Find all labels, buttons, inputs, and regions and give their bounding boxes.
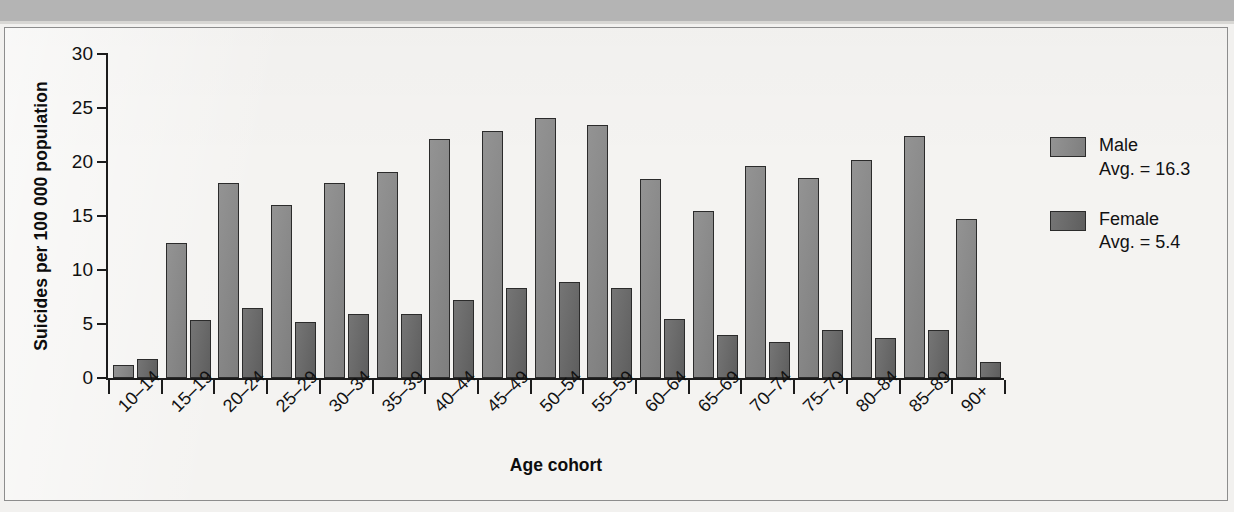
bar-male[interactable] (851, 160, 872, 378)
bar-male[interactable] (956, 219, 977, 378)
y-axis-tick-label: 5 (82, 313, 93, 335)
y-axis-title: Suicides per 100 000 population (28, 54, 54, 378)
legend-series-name: Male (1099, 134, 1190, 158)
y-axis-tick-label: 10 (72, 259, 93, 281)
y-axis-tick-label: 25 (72, 97, 93, 119)
bar-group (899, 54, 952, 378)
bar-group (688, 54, 741, 378)
y-axis-tick (97, 323, 108, 325)
bar-group (582, 54, 635, 378)
x-axis-tick (688, 380, 690, 394)
bar-male[interactable] (324, 183, 345, 378)
chart-legend: Male Avg. = 16.3 Female Avg. = 5.4 (1050, 134, 1210, 281)
x-axis-tick (899, 380, 901, 394)
bar-male[interactable] (113, 365, 134, 378)
x-axis-tick (161, 380, 163, 394)
y-axis-tick-label: 20 (72, 151, 93, 173)
x-axis-tick (793, 380, 795, 394)
legend-series-average: Avg. = 16.3 (1099, 158, 1190, 182)
x-axis-tick (266, 380, 268, 394)
y-axis-tick-label: 30 (72, 43, 93, 65)
x-axis-tick (424, 380, 426, 394)
bar-group (161, 54, 214, 378)
x-axis-tick (846, 380, 848, 394)
bar-male[interactable] (587, 125, 608, 378)
bar-group (213, 54, 266, 378)
x-axis-tick (319, 380, 321, 394)
y-axis-tick (97, 161, 108, 163)
x-axis-tick (213, 380, 215, 394)
x-axis-tick (530, 380, 532, 394)
y-axis-tick (97, 215, 108, 217)
x-axis-tick (108, 380, 110, 394)
legend-label-male: Male Avg. = 16.3 (1099, 134, 1190, 182)
plot-area: 051015202530 10–1415–1920–2425–2930–3435… (108, 54, 1004, 378)
x-axis-tick (740, 380, 742, 394)
bar-female[interactable] (559, 282, 580, 378)
bar-group (477, 54, 530, 378)
x-axis-title: Age cohort (108, 455, 1004, 476)
bar-male[interactable] (271, 205, 292, 378)
bar-group (108, 54, 161, 378)
x-axis-tick (582, 380, 584, 394)
bar-male[interactable] (693, 211, 714, 378)
legend-series-name: Female (1099, 208, 1180, 232)
x-axis-tick (951, 380, 953, 394)
banner-divider (0, 21, 1234, 24)
bar-group (951, 54, 1004, 378)
x-axis-tick (372, 380, 374, 394)
bar-male[interactable] (904, 136, 925, 378)
bar-male[interactable] (166, 243, 187, 378)
x-axis-tick (635, 380, 637, 394)
bar-male[interactable] (429, 139, 450, 378)
chart-page: Suicides per 100 000 population 05101520… (0, 0, 1234, 512)
bar-group (530, 54, 583, 378)
bar-male[interactable] (745, 166, 766, 378)
bar-female[interactable] (611, 288, 632, 378)
legend-swatch-male-icon (1050, 137, 1086, 157)
x-axis-tick (477, 380, 479, 394)
bar-group (793, 54, 846, 378)
bar-male[interactable] (218, 183, 239, 378)
legend-entry-male: Male Avg. = 16.3 (1050, 134, 1210, 182)
bar-female[interactable] (980, 362, 1001, 378)
y-axis-tick (97, 377, 108, 379)
y-axis-tick-label: 15 (72, 205, 93, 227)
bar-female[interactable] (506, 288, 527, 378)
bar-male[interactable] (535, 118, 556, 378)
x-axis-tick (1004, 380, 1006, 394)
y-axis-tick (97, 53, 108, 55)
legend-series-average: Avg. = 5.4 (1099, 231, 1180, 255)
y-axis-tick-label: 0 (82, 367, 93, 389)
bar-group (319, 54, 372, 378)
legend-entry-female: Female Avg. = 5.4 (1050, 208, 1210, 256)
legend-label-female: Female Avg. = 5.4 (1099, 208, 1180, 256)
top-banner (0, 0, 1234, 21)
bar-male[interactable] (482, 131, 503, 378)
bar-group (846, 54, 899, 378)
bar-group (740, 54, 793, 378)
bar-male[interactable] (640, 179, 661, 378)
bar-male[interactable] (798, 178, 819, 378)
bar-group (635, 54, 688, 378)
bar-group (424, 54, 477, 378)
legend-swatch-female-icon (1050, 211, 1086, 231)
y-axis-tick (97, 269, 108, 271)
y-axis-tick (97, 107, 108, 109)
bar-male[interactable] (377, 172, 398, 378)
bar-group (372, 54, 425, 378)
bar-group (266, 54, 319, 378)
